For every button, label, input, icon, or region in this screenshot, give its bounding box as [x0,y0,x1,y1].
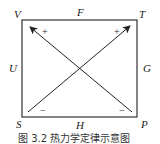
plus-sign-near-t: + [114,27,120,37]
arrow-s-to-t [28,26,130,112]
thermodynamic-square-diagram: V T S P F G H U + + − − 图 3.2 热力学定律示意图 [0,0,160,144]
corner-label-bottom-left: S [16,119,22,130]
figure-caption: 图 3.2 热力学定律示意图 [0,134,160,144]
edge-label-bottom: H [76,120,84,131]
corner-label-top-left: V [14,9,21,20]
minus-sign-near-p: − [119,106,125,116]
corner-label-bottom-right: P [141,119,148,130]
edge-label-right: G [143,63,151,74]
minus-sign-near-s: − [40,106,46,116]
plus-sign-near-v: + [42,27,48,37]
corner-label-top-right: T [139,9,145,20]
arrow-p-to-v [30,27,132,112]
edge-label-top: F [77,7,84,18]
edge-label-left: U [9,63,17,74]
